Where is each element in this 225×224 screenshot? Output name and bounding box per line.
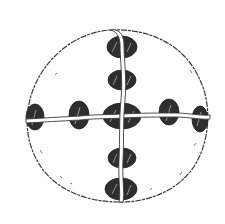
disc-drawing: [0, 0, 225, 224]
stud: [26, 104, 44, 130]
disc-illustration: [0, 0, 225, 224]
stud: [69, 101, 89, 129]
